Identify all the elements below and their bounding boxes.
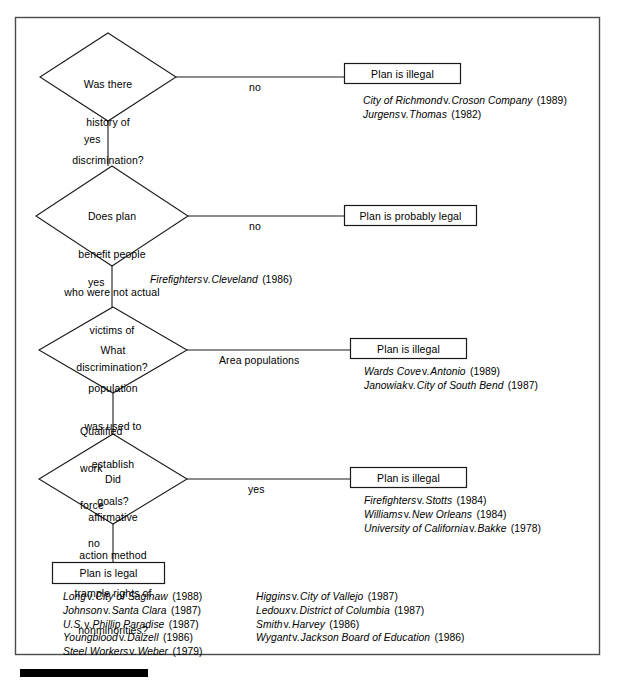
terminal-label-r3: Plan is illegal [350,343,467,355]
terminal-label-r2: Plan is probably legal [344,210,477,222]
edge-label-q1-yes: yes [84,133,101,145]
terminal-label-r4: Plan is illegal [350,472,467,484]
case-citation: Ledouxv.District of Columbia (1987) [256,604,465,617]
citations-legal-left: Longv.City of Saginaw (1988)Johnsonv.San… [63,590,203,659]
edge-label-q3-qualified: Qualified work force [80,400,122,536]
terminal-label-r1: Plan is illegal [344,68,461,80]
flowchart-canvas: Was there history of discrimination? Doe… [0,0,620,683]
case-citation: Higginsv.City of Vallejo (1987) [256,590,465,603]
black-rule [20,669,148,677]
case-citation: Jurgensv.Thomas (1982) [363,108,567,121]
case-citation: Janowiakv.City of South Bend (1987) [364,379,538,392]
case-citation: Firefightersv.Cleveland (1986) [150,273,292,286]
case-citation: Wards Covev.Antonio (1989) [364,365,538,378]
citations-after-q2-yes: Firefightersv.Cleveland (1986) [150,273,292,286]
case-citation: University of Californiav.Bakke (1978) [364,522,541,535]
citations-legal-right: Higginsv.City of Vallejo (1987)Ledouxv.D… [256,590,465,645]
case-citation: Johnsonv.Santa Clara (1987) [63,604,203,617]
edge-label-q4-yes: yes [248,483,265,495]
decision-label-q1: Was there history of discrimination? [40,53,176,192]
edge-label-q4-no: no [88,537,100,549]
case-citation: Steel Workersv.Weber (1979) [63,645,203,658]
case-citation: Firefightersv.Stotts (1984) [364,494,541,507]
terminal-label-r5: Plan is legal [52,567,165,579]
case-citation: Wygantv.Jackson Board of Education (1986… [256,631,465,644]
citations-after-q1-no: City of Richmondv.Croson Company (1989)J… [363,94,567,121]
case-citation: Youngbloodv.Dalzell (1986) [63,631,203,644]
edge-label-q1-no: no [249,81,261,93]
case-citation: Williamsv.New Orleans (1984) [364,508,541,521]
edge-label-q2-yes: yes [88,276,105,288]
case-citation: Longv.City of Saginaw (1988) [63,590,203,603]
case-citation: City of Richmondv.Croson Company (1989) [363,94,567,107]
edge-label-q2-no: no [249,220,261,232]
citations-after-q3-area: Wards Covev.Antonio (1989)Janowiakv.City… [364,365,538,392]
edge-label-q3-area: Area populations [219,354,299,366]
case-citation: U.S.v.Phillip Paradise (1987) [63,618,203,631]
case-citation: Smithv.Harvey (1986) [256,618,465,631]
citations-after-q4-yes: Firefightersv.Stotts (1984)Williamsv.New… [364,494,541,535]
